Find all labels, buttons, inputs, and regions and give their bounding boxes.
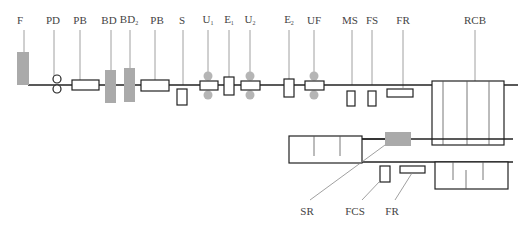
fr-box-top [387, 89, 413, 97]
label-rcb: RCB [464, 14, 486, 26]
label-bd-1: BD [101, 14, 116, 26]
label-pb-1: PB [73, 14, 86, 26]
ms-box [347, 91, 355, 106]
bd-block-1 [105, 70, 116, 103]
process-line-diagram: F PD PB BD BD2 PB S U1 E1 U2 E2 UF MS FS… [0, 0, 532, 225]
e2-box [284, 79, 294, 97]
label-e-1: E1 [224, 13, 234, 26]
label-f: F [17, 14, 23, 26]
label-uf: UF [307, 14, 321, 26]
sr-block [385, 132, 411, 146]
u2-unit [241, 72, 260, 100]
lower-right-box [435, 162, 508, 189]
top-labels: F PD PB BD BD2 PB S U1 E1 U2 E2 UF MS FS… [17, 13, 486, 26]
pay-off-rolls-pd [53, 75, 61, 93]
pb-box-2 [141, 80, 169, 91]
s-box [177, 89, 187, 105]
u1-unit [200, 72, 218, 100]
label-fr-2: FR [385, 205, 399, 217]
lower-left-box [289, 136, 362, 163]
fr-box-bottom [400, 166, 425, 173]
pb-box-1 [72, 80, 99, 90]
bottom-labels: SR FCS FR [300, 205, 399, 217]
label-fcs: FCS [345, 205, 365, 217]
label-ms: MS [342, 14, 358, 26]
e1-box [224, 77, 234, 95]
bd-block-2 [124, 68, 135, 102]
label-e-2: E2 [284, 13, 294, 26]
feed-unit-f [17, 52, 29, 85]
label-sr: SR [300, 205, 314, 217]
label-fr-1: FR [396, 14, 410, 26]
label-u-2: U2 [245, 13, 256, 26]
label-pd: PD [46, 14, 60, 26]
label-bd-2: BD2 [120, 13, 138, 26]
rcb-unit [432, 81, 504, 145]
label-u-1: U1 [203, 13, 214, 26]
label-pb-2: PB [150, 14, 163, 26]
fs-box [368, 91, 376, 106]
uf-unit [305, 72, 324, 100]
label-fs: FS [366, 14, 378, 26]
fcs-box [380, 166, 390, 182]
label-s: S [179, 14, 185, 26]
